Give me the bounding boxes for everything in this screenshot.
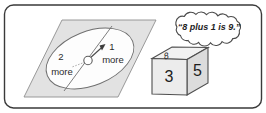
cube-front-number: 3 (165, 68, 174, 85)
spinner-hub (84, 56, 92, 64)
cube-right-number: 5 (193, 62, 202, 79)
spinner-sector-2-label: more (51, 66, 73, 77)
scene-graphic: 1 more 2 more “8 plus 1 is 9.” 3 5 8 (0, 0, 266, 113)
cube-top-number: 8 (164, 50, 169, 62)
number-cube[interactable]: 3 5 8 (152, 47, 208, 95)
spinner-sector-1-number: 1 (109, 41, 114, 52)
illustration-panel: 1 more 2 more “8 plus 1 is 9.” 3 5 8 (0, 0, 266, 113)
speech-bubble: “8 plus 1 is 9.” (176, 12, 241, 46)
spinner-sector-1-label: more (102, 54, 124, 65)
spinner-sector-2-number: 2 (58, 51, 63, 62)
speech-bubble-text: “8 plus 1 is 9.” (178, 22, 241, 32)
